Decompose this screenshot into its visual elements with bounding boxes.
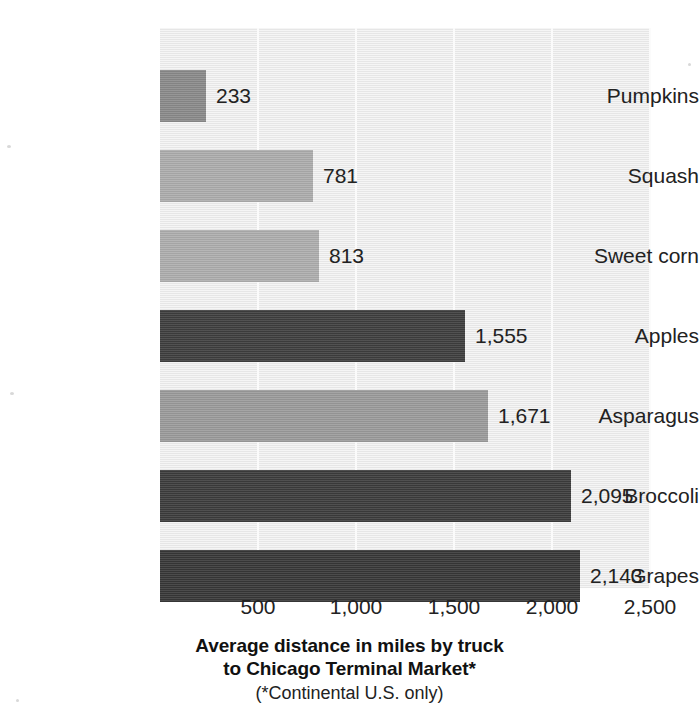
bar-texture <box>160 310 465 362</box>
scan-speckle <box>16 699 19 702</box>
chart-figure: PumpkinsSquashSweet cornApplesAsparagusB… <box>0 0 699 708</box>
category-label-apples: Apples <box>547 325 699 346</box>
x-tick-500: 500 <box>240 596 275 617</box>
x-tick-1500: 1,500 <box>428 596 481 617</box>
bar[interactable] <box>160 390 488 442</box>
category-label-squash: Squash <box>547 165 699 186</box>
bar[interactable] <box>160 150 313 202</box>
bar[interactable] <box>160 230 319 282</box>
value-label-broccoli: 2,095 <box>581 485 634 506</box>
bar[interactable] <box>160 310 465 362</box>
category-label-sweet-corn: Sweet corn <box>547 245 699 266</box>
bar-texture <box>160 70 206 122</box>
x-tick-2000: 2,000 <box>526 596 579 617</box>
category-label-asparagus: Asparagus <box>547 405 699 426</box>
bar[interactable] <box>160 70 206 122</box>
value-label-pumpkins: 233 <box>216 85 251 106</box>
x-tick-2500: 2,500 <box>624 596 677 617</box>
value-label-asparagus: 1,671 <box>498 405 551 426</box>
value-label-squash: 781 <box>323 165 358 186</box>
value-label-grapes: 2,143 <box>590 565 643 586</box>
caption-footnote: (*Continental U.S. only) <box>0 680 699 705</box>
value-label-sweet-corn: 813 <box>329 245 364 266</box>
bar-texture <box>160 230 319 282</box>
scan-speckle <box>7 145 11 148</box>
bar-texture <box>160 470 571 522</box>
scan-speckle <box>688 63 691 66</box>
x-tick-1000: 1,000 <box>330 596 383 617</box>
value-label-apples: 1,555 <box>475 325 528 346</box>
caption-line-2: to Chicago Terminal Market* <box>0 657 699 680</box>
category-label-pumpkins: Pumpkins <box>547 85 699 106</box>
bar-texture <box>160 390 488 442</box>
scan-speckle <box>10 392 14 395</box>
chart-caption: Average distance in miles by truck to Ch… <box>0 634 699 705</box>
caption-line-1: Average distance in miles by truck <box>0 634 699 657</box>
bar-texture <box>160 150 313 202</box>
bar[interactable] <box>160 470 571 522</box>
